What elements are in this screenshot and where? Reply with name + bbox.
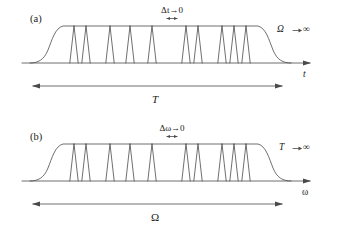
figure-container: (a) Δt→0 Ω ∞ t T [0, 0, 340, 237]
spike [70, 144, 78, 181]
spike [148, 26, 156, 63]
delta-marker-a [166, 17, 177, 20]
delta-label-a: Δt→0 [146, 6, 198, 15]
spike [242, 26, 250, 63]
span-label-a: T [152, 94, 158, 105]
span-label-b: Ω [151, 212, 159, 223]
span-arrow-b [32, 201, 283, 206]
spike [230, 26, 238, 63]
spike [148, 144, 156, 181]
axis-arrowhead-b [303, 179, 311, 184]
envelope-curve-a [30, 26, 291, 63]
limit-label-b: T [279, 143, 284, 153]
panel-tag-b: (b) [30, 132, 42, 143]
axis-arrowhead-a [303, 61, 311, 66]
spike [242, 144, 250, 181]
limit-arrow-b [293, 147, 302, 151]
spike [70, 26, 78, 63]
spike [82, 144, 90, 181]
delta-marker-b [166, 135, 177, 138]
panel-a: (a) Δt→0 Ω ∞ t T [0, 0, 340, 118]
spike [126, 144, 134, 181]
spike [230, 144, 238, 181]
spike [218, 26, 226, 63]
axis-label-b: ω [302, 188, 308, 198]
spike [194, 144, 202, 181]
axis-label-a: t [303, 70, 306, 80]
limit-arrow-a [293, 29, 302, 33]
panel-a-graphic [0, 0, 340, 118]
span-arrow-a [32, 83, 283, 88]
limit-label-a: Ω [277, 25, 284, 35]
limit-value-b: ∞ [303, 143, 310, 153]
spike-group-a [70, 26, 250, 63]
spike [194, 26, 202, 63]
spike [182, 144, 190, 181]
spike [106, 144, 114, 181]
panel-b-graphic [0, 118, 340, 236]
spike [182, 26, 190, 63]
spike [106, 26, 114, 63]
spike [218, 144, 226, 181]
panel-tag-a: (a) [30, 14, 42, 25]
spike [126, 26, 134, 63]
delta-label-b: Δω→0 [144, 124, 200, 133]
limit-value-a: ∞ [303, 25, 310, 35]
spike [82, 26, 90, 63]
spike-group-b [70, 144, 250, 181]
envelope-curve-b [30, 144, 291, 181]
panel-b: (b) Δω→0 T ∞ ω Ω [0, 118, 340, 236]
